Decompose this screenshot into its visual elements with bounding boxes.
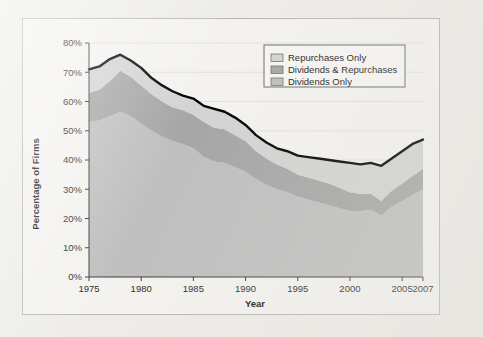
legend-swatch	[271, 78, 283, 86]
area-bands	[89, 55, 423, 277]
x-tick-label: 2000	[339, 283, 360, 294]
x-tick-label: 1990	[235, 283, 256, 294]
y-tick-label: 40%	[63, 154, 83, 165]
x-tick-label: 1995	[287, 283, 308, 294]
x-tick-label: 1975	[78, 283, 99, 294]
legend-swatch	[271, 54, 283, 62]
y-tick-label: 80%	[63, 37, 83, 48]
legend-label: Dividends Only	[288, 76, 352, 87]
y-tick-label: 30%	[63, 184, 83, 195]
x-axis-title: Year	[245, 298, 265, 309]
legend-swatch	[271, 66, 283, 74]
x-tick-label: 1980	[131, 283, 152, 294]
y-axis-ticks: 0%10%20%30%40%50%60%70%80%	[63, 37, 89, 282]
y-tick-label: 10%	[63, 242, 83, 253]
figure-frame: 0%10%20%30%40%50%60%70%80% 1975198019851…	[22, 18, 440, 315]
x-tick-label: 2005	[392, 283, 413, 294]
page-background: 0%10%20%30%40%50%60%70%80% 1975198019851…	[0, 0, 483, 337]
y-axis-title: Percentage of Firms	[30, 138, 41, 229]
y-tick-label: 50%	[63, 125, 83, 136]
legend-label: Repurchases Only	[288, 52, 366, 63]
chart-legend: Repurchases OnlyDividends & RepurchasesD…	[264, 45, 405, 87]
x-axis-ticks: 19751980198519901995200020052007	[78, 277, 433, 294]
y-tick-label: 20%	[63, 213, 83, 224]
chart-svg: 0%10%20%30%40%50%60%70%80% 1975198019851…	[23, 19, 441, 316]
x-tick-label: 1985	[183, 283, 204, 294]
y-tick-label: 60%	[63, 96, 83, 107]
x-tick-label: 2007	[412, 283, 433, 294]
stacked-area-chart: 0%10%20%30%40%50%60%70%80% 1975198019851…	[23, 19, 441, 316]
y-tick-label: 0%	[68, 271, 82, 282]
y-tick-label: 70%	[63, 67, 83, 78]
legend-label: Dividends & Repurchases	[288, 64, 398, 75]
